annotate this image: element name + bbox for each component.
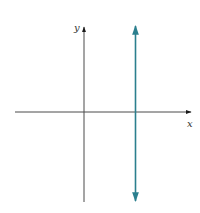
y-axis-label: y bbox=[73, 22, 80, 33]
coordinate-plane: y x bbox=[0, 0, 200, 213]
x-axis-label: x bbox=[187, 118, 193, 129]
